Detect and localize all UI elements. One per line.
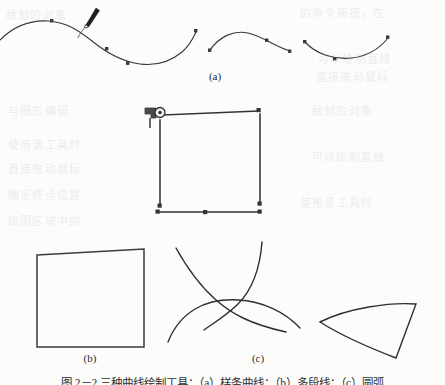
node-marker	[126, 62, 129, 65]
panel-c-drawing	[0, 240, 445, 370]
endpoint-marker	[203, 210, 207, 214]
spline-curve-right	[305, 38, 388, 58]
curved-triangle	[320, 304, 416, 358]
endpoint-marker	[258, 202, 262, 206]
node-marker	[50, 19, 53, 22]
pen-center-dot	[158, 111, 161, 114]
panel-c-label: (c)	[228, 352, 288, 364]
endpoint-marker	[158, 204, 162, 208]
node-marker	[303, 40, 306, 43]
node-marker	[194, 29, 197, 32]
endpoint-markers	[156, 108, 262, 214]
node-marker	[386, 36, 389, 39]
polyline-segment-top	[163, 111, 258, 115]
panel-b-polyline-drawing	[0, 98, 445, 228]
arc-wide	[168, 300, 300, 342]
arc-crossing-left	[176, 248, 286, 332]
arc-crossing-right	[204, 242, 262, 330]
panel-a-label: (a)	[180, 70, 250, 82]
node-marker	[208, 49, 211, 52]
figure-caption: 图 2－2 三种曲线绘制工具：（a）样条曲线；（b）多段线；（c）圆弧	[0, 374, 445, 385]
spline-curve-middle	[210, 32, 290, 51]
endpoint-marker	[257, 108, 261, 112]
spline-curve-long	[0, 21, 196, 65]
node-marker	[105, 47, 108, 50]
node-marker	[288, 50, 291, 53]
endpoint-marker	[156, 210, 160, 214]
pen-nib-icon	[86, 8, 100, 27]
node-marker	[265, 39, 268, 42]
figure-page: 绘制的对象 的命令按钮，在 可以绘制直线 与图形编辑 使用该工具时 直接拖动鼠标…	[0, 0, 445, 385]
endpoint-marker	[258, 210, 262, 214]
pen-tip-dot	[85, 25, 88, 28]
pen-cursor[interactable]	[145, 108, 165, 129]
node-marker	[333, 57, 336, 60]
pen-body-icon	[145, 108, 156, 118]
